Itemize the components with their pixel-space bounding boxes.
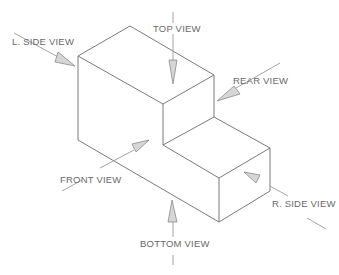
isometric-views-diagram: L. SIDE VIEW TOP VIEW REAR VIEW FRONT VI… (0, 0, 339, 275)
bottom-view-label: BOTTOM VIEW (140, 239, 210, 249)
left-side-view-label: L. SIDE VIEW (12, 37, 74, 47)
rear-view-label: REAR VIEW (233, 76, 288, 86)
right-side-view-label: R. SIDE VIEW (272, 199, 336, 209)
top-view-label: TOP VIEW (153, 24, 201, 34)
bottom-arrow-icon (168, 200, 177, 265)
stepped-block (78, 26, 270, 222)
front-view-label: FRONT VIEW (60, 175, 121, 185)
